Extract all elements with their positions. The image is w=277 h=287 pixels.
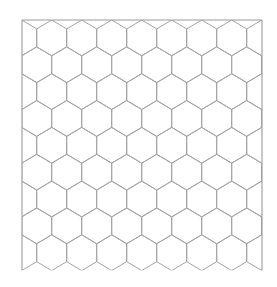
hexagon-cell — [202, 208, 232, 244]
hexagon-grid-diagram — [0, 0, 277, 287]
hexagon-cell — [37, 235, 67, 271]
hexagon-cell — [142, 208, 172, 244]
hexagon-cell — [202, 101, 232, 137]
hexagon-cell — [187, 74, 217, 110]
hexagon-cell — [187, 235, 217, 271]
hexagon-cell — [157, 20, 187, 56]
hexagon-cell — [142, 47, 172, 83]
hexagon-cell — [0, 101, 22, 137]
hexagon-cell — [22, 101, 52, 137]
hexagon-cell — [67, 74, 97, 110]
hexagon-cell — [22, 47, 52, 83]
hexagon-cell — [172, 101, 202, 137]
hexagon-cell — [127, 235, 157, 271]
hexagon-cell — [127, 127, 157, 163]
hexagon-cell — [142, 154, 172, 190]
hexagon-cell — [232, 208, 262, 244]
hexagon-cell — [217, 181, 247, 217]
hexagon-cell — [262, 47, 277, 83]
hexagon-cell — [187, 127, 217, 163]
hexagon-cell — [112, 47, 142, 83]
hexagon-cell — [232, 101, 262, 137]
hexagon-cell — [202, 154, 232, 190]
hexagon-cell — [52, 154, 82, 190]
hexagon-cell — [217, 127, 247, 163]
hexagon-cell — [232, 47, 262, 83]
hexagon-cell — [232, 154, 262, 190]
hexagon-cell — [157, 127, 187, 163]
hexagon-cell — [82, 101, 112, 137]
hexagon-cell — [217, 74, 247, 110]
hexagon-cell — [22, 154, 52, 190]
hexagon-cell — [217, 235, 247, 271]
hexagon-cell — [0, 154, 22, 190]
hexagon-cell — [157, 74, 187, 110]
hexagon-cell — [112, 154, 142, 190]
hexagon-cell — [127, 74, 157, 110]
hexagon-cell — [37, 127, 67, 163]
hexagon-cell — [82, 208, 112, 244]
hexagon-cell — [262, 208, 277, 244]
hexagon-cell — [97, 20, 127, 56]
hexagon-cell — [37, 181, 67, 217]
hexagon-cell — [52, 208, 82, 244]
hexagon-cell — [172, 208, 202, 244]
hexagon-cell — [187, 181, 217, 217]
hexagon-cell — [22, 208, 52, 244]
hexagon-cell — [52, 47, 82, 83]
hexagon-cell — [67, 181, 97, 217]
hexagon-cell — [37, 74, 67, 110]
hexagon-cell — [97, 181, 127, 217]
hexagon-cell — [262, 154, 277, 190]
hexagon-cell — [112, 101, 142, 137]
hexagon-cell — [97, 235, 127, 271]
hexagon-cell — [112, 208, 142, 244]
hexagon-cell — [172, 154, 202, 190]
hexagon-cells — [0, 20, 277, 271]
hexagon-cell — [262, 101, 277, 137]
hexagon-cell — [202, 47, 232, 83]
hexagon-cell — [172, 47, 202, 83]
hexagon-cell — [67, 20, 97, 56]
hexagon-cell — [37, 20, 67, 56]
hexagon-cell — [142, 101, 172, 137]
hexagon-cell — [127, 20, 157, 56]
hexagon-cell — [82, 47, 112, 83]
hexagon-cell — [67, 235, 97, 271]
hexagon-cell — [52, 101, 82, 137]
hexagon-cell — [127, 181, 157, 217]
hexagon-cell — [157, 235, 187, 271]
hexagon-cell — [0, 47, 22, 83]
hexagon-cell — [67, 127, 97, 163]
hexagon-cell — [82, 154, 112, 190]
hexagon-cell — [157, 181, 187, 217]
hexagon-cell — [97, 74, 127, 110]
hexagon-cell — [217, 20, 247, 56]
hexagon-cell — [187, 20, 217, 56]
hexagon-cell — [0, 208, 22, 244]
hexagon-cell — [97, 127, 127, 163]
